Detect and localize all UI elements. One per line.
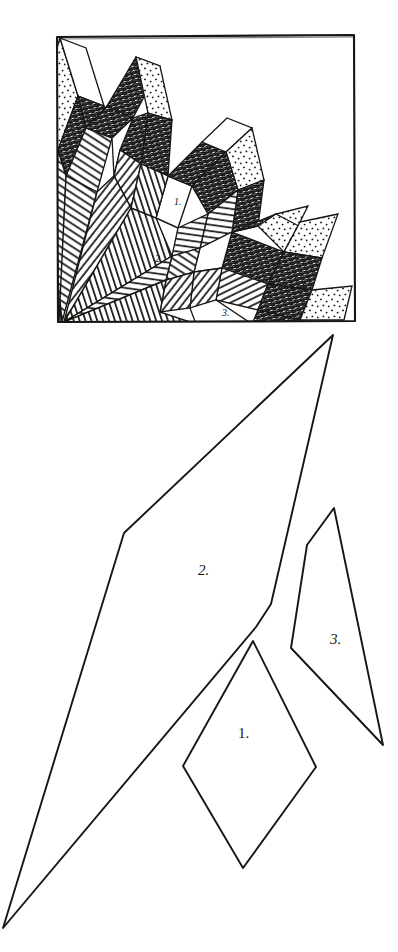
tiling-figure-svg: 1. 2. 3. 2. 3. 1. (0, 0, 398, 952)
prototile-label-1: 1. (238, 725, 249, 741)
figure-root: 1. 2. 3. 2. 3. 1. (0, 0, 398, 952)
prototile-label-2: 2. (198, 562, 209, 578)
tiling-label-1: 1. (174, 196, 182, 207)
prototile-label-3: 3. (329, 631, 341, 647)
tiling-label-3: 3. (221, 307, 230, 318)
tiling-label-2: 2. (155, 253, 163, 264)
